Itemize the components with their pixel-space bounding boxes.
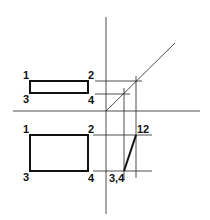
label-top-4: 4	[88, 94, 95, 106]
label-front-2: 2	[88, 123, 94, 135]
side-view-edge	[124, 135, 136, 171]
label-top-2: 2	[88, 69, 94, 81]
label-front-3: 3	[23, 171, 29, 183]
label-top-3: 3	[23, 93, 29, 105]
projection-diagram: 1 2 3 4 1 2 3 4 12 3,4	[0, 0, 210, 220]
label-top-1: 1	[23, 69, 29, 81]
miter-line	[106, 43, 175, 111]
label-side-34: 3,4	[109, 172, 125, 184]
front-view-rectangle	[30, 135, 88, 171]
label-front-4: 4	[88, 172, 95, 184]
label-side-12: 12	[137, 123, 149, 135]
label-front-1: 1	[23, 123, 29, 135]
top-view-rectangle	[30, 81, 88, 93]
